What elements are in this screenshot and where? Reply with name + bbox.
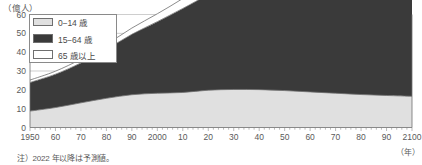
legend-item-young: 0−14 歳 [33,17,88,28]
x-tick-label: 60 [51,132,61,142]
population-area-chart-figure: （億人） 0102030405060 195060708090200010203… [0,0,422,165]
x-tick-label: 60 [305,132,315,142]
y-tick-label: 50 [17,28,27,38]
legend-label-working: 15−64 歳 [58,33,93,45]
x-tick-label: 70 [331,132,341,142]
x-tick-label: 30 [229,132,239,142]
x-tick-label: 40 [254,132,264,142]
legend-label-elderly: 65 歳以上 [58,49,96,61]
legend-label-young: 0−14 歳 [58,16,88,28]
y-tick-labels-group: 0102030405060 [17,10,27,133]
x-tick-label: 80 [356,132,366,142]
x-tick-label: 2100 [403,132,422,142]
x-tick-label: 50 [280,132,290,142]
x-tick-label: 90 [382,132,392,142]
x-tick-label: 20 [204,132,214,142]
y-tick-label: 60 [17,10,27,20]
y-tick-label: 20 [17,85,27,95]
chart-note: 注）2022 年以降は予測値。 [17,152,114,163]
x-axis-unit-label: （年） [396,146,420,157]
legend-item-working: 15−64 歳 [33,33,93,44]
x-tick-label: 90 [127,132,137,142]
y-tick-label: 40 [17,47,27,57]
x-tick-label: 2000 [148,132,167,142]
y-tick-label: 10 [17,104,27,114]
x-tick-label: 10 [178,132,188,142]
legend-item-elderly: 65 歳以上 [33,49,96,60]
y-tick-label: 30 [17,66,27,76]
x-tick-labels-group: 19506070809020001020304050607080902100 [21,132,422,142]
legend-swatch-young [33,18,53,27]
x-tick-label: 70 [76,132,86,142]
x-tick-label: 1950 [21,132,40,142]
legend-swatch-working [33,34,53,43]
x-tick-label: 80 [102,132,112,142]
legend-swatch-elderly [33,50,53,59]
